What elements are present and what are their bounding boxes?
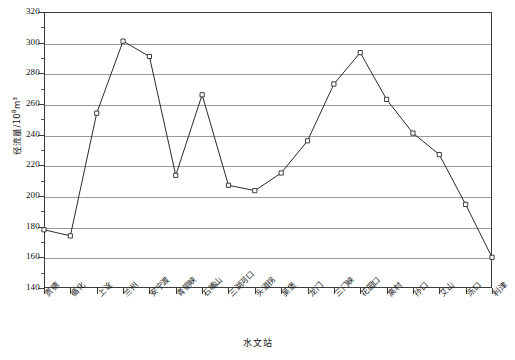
y-tick-label: 260 xyxy=(0,98,40,108)
data-point-marker xyxy=(174,173,178,177)
y-tick-label: 240 xyxy=(0,129,40,139)
data-point-marker xyxy=(464,202,468,206)
data-point-marker xyxy=(95,111,99,115)
y-tick-label: 220 xyxy=(0,159,40,169)
data-point-marker xyxy=(42,228,46,232)
y-tick-label: 180 xyxy=(0,221,40,231)
y-tick-label: 160 xyxy=(0,251,40,261)
data-point-marker xyxy=(147,54,151,58)
data-point-marker xyxy=(411,131,415,135)
y-tick-label: 140 xyxy=(0,282,40,292)
data-point-marker xyxy=(437,153,441,157)
runoff-series xyxy=(44,12,492,288)
y-tick-label: 300 xyxy=(0,37,40,47)
data-point-marker xyxy=(279,171,283,175)
data-point-marker xyxy=(384,97,388,101)
y-tick-label: 200 xyxy=(0,190,40,200)
data-point-marker xyxy=(305,139,309,143)
data-point-marker xyxy=(121,39,125,43)
x-axis-title: 水文站 xyxy=(0,336,515,349)
y-tick-label: 320 xyxy=(0,6,40,16)
data-point-marker xyxy=(332,82,336,86)
series-line xyxy=(44,41,492,257)
y-tick-label: 280 xyxy=(0,67,40,77)
data-point-marker xyxy=(68,234,72,238)
data-point-marker xyxy=(226,183,230,187)
data-point-marker xyxy=(490,255,494,259)
x-tick-label: 利津 xyxy=(491,281,509,299)
data-point-marker xyxy=(358,51,362,55)
data-point-marker xyxy=(200,93,204,97)
data-point-marker xyxy=(253,189,257,193)
runoff-line-chart: 径流量/108m³ 140160180200220240260280300320… xyxy=(0,0,515,360)
